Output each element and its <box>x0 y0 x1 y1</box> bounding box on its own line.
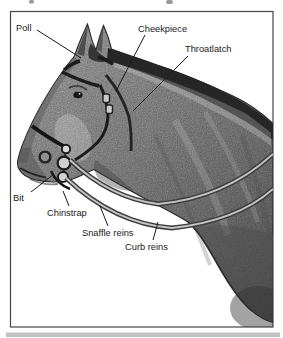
bottom-strip <box>6 333 280 338</box>
bridle-ring <box>62 145 70 153</box>
label-bit: Bit <box>13 193 24 203</box>
nostril <box>40 152 51 163</box>
bridle-diagram: Poll Cheekpiece Throatlatch Bit Chinstra… <box>0 0 283 338</box>
figure-canvas: Poll Cheekpiece Throatlatch Bit Chinstra… <box>0 0 283 338</box>
label-throatlatch: Throatlatch <box>185 44 232 54</box>
label-chinstrap: Chinstrap <box>47 208 87 218</box>
cheekpiece-buckle-lower <box>106 105 113 114</box>
cropped-text-artifacts <box>29 0 173 4</box>
eye <box>73 92 82 99</box>
label-poll: Poll <box>16 23 32 33</box>
label-snaffle-reins: Snaffle reins <box>82 228 134 238</box>
eye-highlight <box>79 93 81 95</box>
label-cheekpiece: Cheekpiece <box>138 24 187 34</box>
label-curb-reins: Curb reins <box>125 242 168 252</box>
snaffle-bit-ring <box>58 157 71 170</box>
cheekpiece-buckle-upper <box>103 94 110 103</box>
